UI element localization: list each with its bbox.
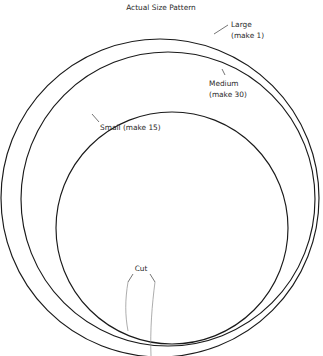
- large-label-line2: (make 1): [231, 31, 264, 40]
- small-leader-line: [92, 114, 99, 122]
- large-leader-line: [214, 25, 228, 34]
- pattern-diagram: Actual Size Pattern Large (make 1) Mediu…: [0, 0, 323, 356]
- medium-leader-line: [222, 69, 225, 75]
- medium-label-line2: (make 30): [209, 90, 247, 99]
- cut-line-left: [126, 282, 128, 331]
- figure-title: Actual Size Pattern: [126, 3, 196, 12]
- pattern-page: t the g de- s on Actual Size Pattern Lar…: [0, 0, 323, 356]
- cut-leader-line-left: [128, 274, 133, 282]
- cut-label: Cut: [135, 264, 148, 273]
- medium-circle-outline: [21, 52, 315, 346]
- cut-leader-line-right: [150, 274, 155, 282]
- small-label-line1: Small (make 15): [100, 123, 161, 132]
- large-circle-outline: [1, 39, 319, 356]
- medium-label-line1: Medium: [209, 79, 239, 88]
- large-label-line1: Large: [231, 20, 252, 29]
- small-circle-outline: [56, 112, 288, 344]
